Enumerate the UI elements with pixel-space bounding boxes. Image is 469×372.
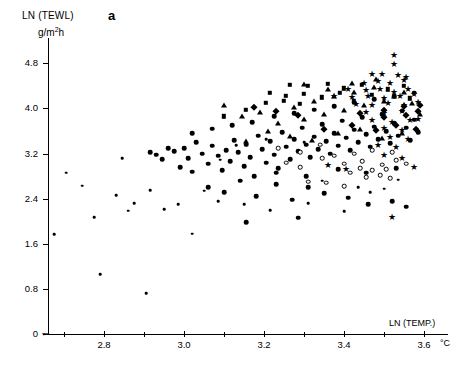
data-point-square [282, 98, 286, 102]
data-point-dot [307, 202, 310, 205]
data-point-dot [65, 171, 68, 174]
data-point-triangle [341, 107, 347, 112]
data-point-circle [284, 145, 289, 150]
x-tick [344, 331, 345, 337]
data-point-open [364, 175, 369, 180]
data-point-star: ★ [384, 98, 393, 107]
data-point-star: ★ [374, 140, 383, 149]
data-point-circle [232, 138, 237, 143]
data-point-circle [290, 198, 295, 203]
data-point-circle [352, 128, 357, 133]
data-point-circle [224, 148, 229, 153]
x-tick [144, 332, 145, 337]
data-point-dot [121, 157, 124, 160]
y-tick-label: 3.2 [8, 148, 38, 159]
data-point-dot [177, 203, 180, 206]
data-point-open [298, 165, 303, 170]
data-point-star: ★ [406, 115, 415, 124]
y-tick [43, 289, 48, 290]
data-point-circle [166, 146, 171, 151]
data-point-circle [324, 139, 329, 144]
data-point-open [384, 167, 389, 172]
x-tick [424, 331, 425, 337]
data-point-circle [272, 152, 277, 157]
data-point-circle [356, 140, 361, 145]
data-point-dot [99, 273, 102, 276]
data-point-circle [236, 150, 241, 155]
data-point-circle [254, 194, 259, 199]
data-point-star: ★ [392, 142, 401, 151]
data-point-diamond [373, 127, 379, 133]
data-point-star: ★ [398, 106, 407, 115]
data-point-square [264, 101, 268, 105]
x-tick-label: 3.4 [329, 339, 359, 350]
data-point-dot [93, 216, 96, 219]
data-point-circle [242, 164, 247, 169]
data-point-dot [243, 203, 246, 206]
data-point-dot [149, 189, 152, 192]
data-point-triangle [309, 138, 315, 143]
data-point-dot [383, 187, 386, 190]
data-point-dot [163, 208, 166, 211]
x-tick [304, 332, 305, 337]
y-axis-label: LN (TEWL) [22, 10, 74, 21]
data-point-dot [191, 232, 194, 235]
data-point-triangle [275, 121, 281, 126]
data-point-circle [190, 131, 195, 136]
data-point-circle [210, 143, 215, 148]
data-point-circle [172, 149, 177, 154]
x-axis-line [48, 334, 448, 335]
data-point-circle [154, 152, 159, 157]
data-point-circle [322, 191, 327, 196]
y-tick-label: 2.4 [8, 193, 38, 204]
data-point-circle [206, 161, 211, 166]
data-point-dot [235, 144, 238, 147]
data-point-circle [308, 155, 313, 160]
data-point-circle [252, 174, 257, 179]
data-point-dot [127, 209, 130, 212]
data-point-star: ★ [342, 165, 351, 174]
data-point-square [298, 102, 302, 106]
data-point-circle [296, 216, 301, 221]
y-tick-label: 1.6 [8, 238, 38, 249]
data-point-open [318, 142, 323, 147]
data-point-star: ★ [410, 163, 419, 172]
data-point-star: ★ [388, 118, 397, 127]
data-point-circle [228, 159, 233, 164]
data-point-star: ★ [386, 132, 395, 141]
data-point-open [352, 151, 357, 156]
data-point-open [380, 163, 385, 168]
y-tick [43, 244, 48, 245]
data-point-circle [222, 190, 227, 195]
y-tick-label: 0.8 [8, 283, 38, 294]
data-point-star: ★ [324, 160, 333, 169]
data-point-circle [274, 170, 279, 175]
data-point-circle [248, 155, 253, 160]
data-point-circle [260, 147, 265, 152]
data-point-star: ★ [352, 99, 361, 108]
data-point-circle [256, 133, 261, 138]
data-point-triangle [239, 114, 245, 119]
data-point-open [298, 150, 303, 155]
data-point-circle [220, 168, 225, 173]
data-point-star: ★ [388, 212, 397, 221]
data-point-circle [306, 185, 311, 190]
data-point-open [332, 154, 337, 159]
y-tick-label: 4.0 [8, 102, 38, 113]
data-point-diamond [321, 126, 327, 132]
data-point-circle [272, 114, 277, 119]
data-point-circle [404, 204, 409, 209]
data-point-triangle [265, 129, 271, 134]
data-point-circle [390, 199, 395, 204]
data-point-dot [343, 210, 346, 213]
y-tick [43, 199, 48, 200]
data-point-triangle [291, 105, 297, 110]
data-point-dot [81, 184, 84, 187]
data-point-circle [264, 160, 269, 165]
data-point-dot [53, 233, 56, 236]
data-point-star: ★ [414, 97, 423, 106]
data-point-circle [190, 169, 195, 174]
data-point-star: ★ [390, 60, 399, 69]
data-point-dot [133, 202, 136, 205]
data-point-star: ★ [368, 115, 377, 124]
